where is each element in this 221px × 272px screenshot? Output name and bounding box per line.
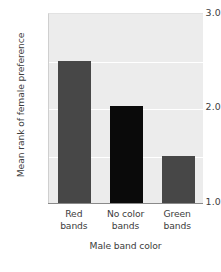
bar-chart-figure: Mean rank of female preference 3.0 2.0 1… <box>0 0 221 272</box>
x-tick-line1: No color <box>107 208 144 219</box>
y-axis-title: Mean rank of female preference <box>14 5 28 205</box>
x-tick-line2: bands <box>146 220 208 232</box>
x-tick-line1: Red <box>65 208 82 219</box>
bar-no-color-bands <box>110 106 143 203</box>
plot-area <box>48 13 203 203</box>
x-axis-tick-label: Green bands <box>146 208 208 231</box>
x-axis-title: Male band color <box>48 240 203 252</box>
x-tick-line1: Green <box>163 208 190 219</box>
bar-red-bands <box>58 61 91 204</box>
x-axis-line <box>48 203 203 204</box>
bar-green-bands <box>162 156 195 203</box>
